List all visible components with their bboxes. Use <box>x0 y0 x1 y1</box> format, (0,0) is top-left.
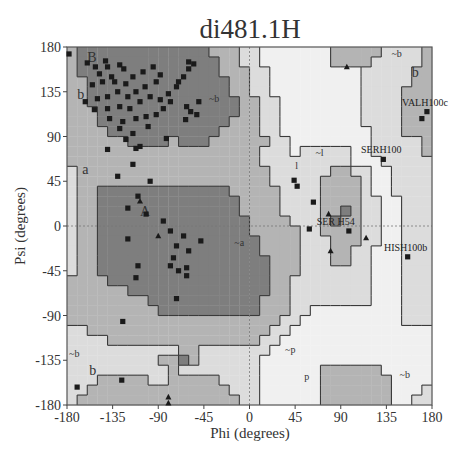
residue-point <box>186 66 191 71</box>
residue-point <box>115 89 120 94</box>
residue-point <box>109 74 114 79</box>
residue-point <box>123 81 128 86</box>
residue-point <box>83 99 88 104</box>
residue-point <box>117 104 122 109</box>
point-label: SERH100 <box>361 144 402 155</box>
residue-point <box>135 194 140 199</box>
residue-point <box>105 106 110 111</box>
y-axis-label: Psi (degrees) <box>12 187 29 265</box>
residue-point <box>154 79 159 84</box>
residue-point <box>171 255 176 260</box>
residue-point <box>66 51 71 56</box>
ramachandran-plot: -180-135-90-450459013518018013590450-45-… <box>0 0 465 457</box>
x-tick-label: -135 <box>100 410 126 425</box>
residue-point <box>105 147 110 152</box>
residue-point <box>121 66 126 71</box>
residue-point <box>127 106 132 111</box>
residue-point <box>405 254 410 259</box>
residue-point <box>133 116 138 121</box>
residue-point <box>168 263 173 268</box>
residue-point <box>181 233 186 238</box>
residue-point <box>151 64 156 69</box>
residue-point <box>93 64 98 69</box>
residue-point <box>117 126 122 131</box>
residue-point <box>143 211 148 216</box>
point-label: VALH100c <box>402 97 448 108</box>
region-label: ~b <box>69 348 79 359</box>
region-label: ~p <box>285 344 295 355</box>
residue-point <box>161 218 166 223</box>
x-axis-label: Phi (degrees) <box>210 425 290 442</box>
residue-point <box>148 179 153 184</box>
residue-point <box>186 248 191 253</box>
residue-point <box>105 64 110 69</box>
residue-point <box>130 162 135 167</box>
residue-point <box>143 114 148 119</box>
residue-point <box>125 94 130 99</box>
residue-point <box>307 226 312 231</box>
residue-point <box>133 275 138 280</box>
residue-point <box>133 146 138 151</box>
residue-point <box>146 124 151 129</box>
residue-point <box>194 112 199 117</box>
residue-point <box>142 84 147 89</box>
residue-point <box>90 82 95 87</box>
y-tick-label: -180 <box>35 398 61 413</box>
y-tick-label: -90 <box>42 309 61 324</box>
residue-point <box>130 74 135 79</box>
residue-point <box>130 131 135 136</box>
region-label: ~b <box>400 369 410 380</box>
residue-point <box>168 228 173 233</box>
residue-point <box>85 60 90 65</box>
region-label: p <box>304 371 309 382</box>
residue-point <box>161 106 166 111</box>
residue-point <box>168 99 173 104</box>
residue-point <box>295 184 300 189</box>
residue-point <box>125 236 130 241</box>
residue-point <box>174 296 179 301</box>
y-tick-label: 135 <box>40 85 61 100</box>
y-tick-label: -135 <box>35 353 61 368</box>
residue-point <box>183 117 188 122</box>
residue-point <box>191 61 196 66</box>
residue-point <box>158 72 163 77</box>
x-tick-label: -45 <box>195 410 214 425</box>
point-label: SER H54 <box>317 216 355 227</box>
residue-point <box>174 243 179 248</box>
residue-point <box>105 94 110 99</box>
residue-point <box>381 157 386 162</box>
residue-point <box>158 97 163 102</box>
y-tick-label: -45 <box>42 264 61 279</box>
residue-point <box>196 99 201 104</box>
residue-point <box>133 89 138 94</box>
point-label: HISH100b <box>384 242 427 253</box>
y-tick-label: 45 <box>47 174 61 189</box>
residue-point <box>119 378 124 383</box>
x-tick-label: 0 <box>246 410 253 425</box>
residue-point <box>103 58 108 63</box>
residue-point <box>184 273 189 278</box>
y-tick-label: 0 <box>54 219 61 234</box>
region-label: b <box>89 363 96 378</box>
residue-point <box>166 91 171 96</box>
residue-point <box>164 136 169 141</box>
residue-point <box>184 265 189 270</box>
residue-point <box>176 79 181 84</box>
region-label: ~b <box>391 48 401 59</box>
x-tick-label: 90 <box>334 410 348 425</box>
residue-point <box>115 174 120 179</box>
residue-point <box>419 116 424 121</box>
residue-point <box>174 84 179 89</box>
residue-point <box>137 99 142 104</box>
residue-point <box>154 112 159 117</box>
residue-point <box>92 107 97 112</box>
residue-point <box>188 109 193 114</box>
residue-point <box>75 385 80 390</box>
y-tick-label: 180 <box>40 40 61 55</box>
residue-point <box>97 71 102 76</box>
residue-point <box>107 116 112 121</box>
residue-point <box>292 178 297 183</box>
residue-point <box>184 104 189 109</box>
y-tick-label: 90 <box>47 130 61 145</box>
x-tick-label: 135 <box>376 410 397 425</box>
